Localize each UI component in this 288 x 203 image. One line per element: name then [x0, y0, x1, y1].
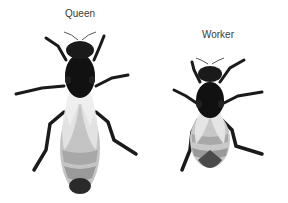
- queen-bee: [16, 32, 136, 194]
- worker-bee: [174, 58, 262, 170]
- bee-illustration: [0, 0, 288, 203]
